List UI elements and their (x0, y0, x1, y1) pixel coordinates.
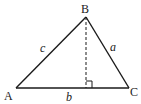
side-label-b: b (66, 90, 72, 104)
side-label-a: a (110, 40, 116, 54)
vertex-label-c: C (130, 85, 138, 99)
vertex-label-a: A (4, 89, 13, 103)
side-a-line (86, 17, 129, 88)
vertex-label-b: B (81, 2, 89, 16)
side-label-c: c (40, 41, 46, 55)
triangle-diagram: B A C c a b (0, 0, 141, 104)
side-c-line (16, 17, 86, 88)
right-angle-marker (86, 81, 92, 88)
